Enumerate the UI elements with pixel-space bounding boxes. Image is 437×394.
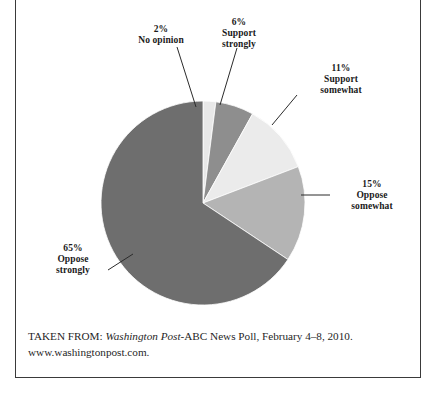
pie-slice-group [101,101,305,305]
caption-source-rest: -ABC News Poll, February 4–8, 2010. [181,330,353,342]
caption-source-line: TAKEN FROM: Washington Post-ABC News Pol… [28,329,420,345]
slice-label-support-strongly: 6% Support strongly [206,17,272,51]
leader-line-support-strongly [220,48,237,105]
slice-label-support-somewhat: 11% Support somewhat [300,63,382,97]
slice-label-oppose-somewhat: 15% Oppose somewhat [332,179,412,213]
slice-label-no-opinion: 2% No opinion [118,24,204,46]
caption-prefix: TAKEN FROM: [28,330,105,342]
caption-source-italic: Washington Post [105,330,180,342]
leader-line-no-opinion [177,47,196,107]
leader-line-support-somewhat [272,95,297,125]
pie-chart: 2% No opinion 6% Support strongly 11% Su… [0,0,437,320]
figure-root: 2% No opinion 6% Support strongly 11% Su… [0,0,437,394]
slice-label-oppose-strongly: 65% Oppose strongly [36,243,110,277]
caption-url-line: www.washingtonpost.com. [28,345,420,361]
figure-caption: TAKEN FROM: Washington Post-ABC News Pol… [28,329,420,360]
